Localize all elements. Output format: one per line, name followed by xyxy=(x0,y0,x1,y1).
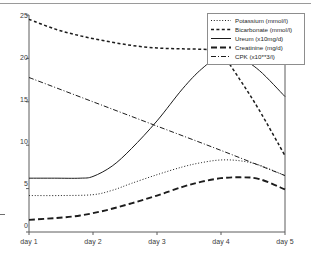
legend-item-cpk: CPK (x10**3/l) xyxy=(210,52,302,61)
x-tick-label-day-2: day 2 xyxy=(76,238,110,245)
legend-label-ureum: Ureum (x10mg/d) xyxy=(232,34,283,43)
legend-line-creatinine xyxy=(210,43,232,52)
x-tick-label-day-3: day 3 xyxy=(140,238,174,245)
legend-item-ureum: Ureum (x10mg/d) xyxy=(210,34,302,43)
y-tick-label-0: 0 xyxy=(10,222,28,229)
series-line-2 xyxy=(29,55,285,178)
legend-line-ureum xyxy=(210,34,232,43)
legend-line-cpk xyxy=(210,52,232,61)
y-tick-label-5: 5 xyxy=(10,180,28,187)
legend-item-potassium: Potassium (mmol/l) xyxy=(210,16,302,25)
chart-figure: 25 20 15 10 5 0 day 1 day 2 day 3 day 4 … xyxy=(0,0,311,257)
series-line-3 xyxy=(29,177,285,220)
y-tick-label-15: 15 xyxy=(10,96,28,103)
legend-label-cpk: CPK (x10**3/l) xyxy=(232,52,275,61)
legend-label-creatinine: Creatinine (mg/d) xyxy=(232,43,283,52)
x-tick-label-day-1: day 1 xyxy=(12,238,46,245)
x-tick-label-day-4: day 4 xyxy=(204,238,238,245)
y-tick-label-20: 20 xyxy=(10,54,28,61)
legend-item-bicarbonate: Bicarbonate (mmol/l) xyxy=(210,25,302,34)
legend-line-bicarbonate xyxy=(210,25,232,34)
y-tick-label-10: 10 xyxy=(10,138,28,145)
x-tick-label-day-5: day 5 xyxy=(268,238,302,245)
legend-label-potassium: Potassium (mmol/l) xyxy=(232,16,288,25)
legend-label-bicarbonate: Bicarbonate (mmol/l) xyxy=(232,25,292,34)
chart-legend: Potassium (mmol/l) Bicarbonate (mmol/l) … xyxy=(207,13,305,65)
series-line-4 xyxy=(29,78,285,176)
legend-line-potassium xyxy=(210,16,232,25)
y-tick-label-25: 25 xyxy=(10,12,28,19)
legend-item-creatinine: Creatinine (mg/d) xyxy=(210,43,302,52)
